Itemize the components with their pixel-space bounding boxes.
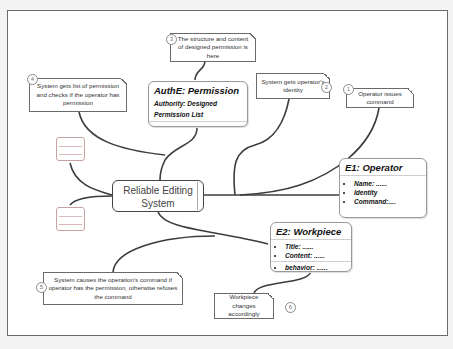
step-number-4: 4 (27, 74, 38, 85)
step-note-5: System causes the operation's command if… (43, 272, 183, 305)
entity-title: E1: Operator (340, 159, 426, 176)
entity-item: Name: ...... (354, 179, 421, 188)
step-note-2: System gets operator's identity (256, 73, 330, 99)
step-number-5: 5 (36, 282, 47, 293)
central-node: Reliable Editing System (112, 180, 204, 212)
step-note-1: Operator issues command (346, 88, 414, 108)
central-node-label: Reliable Editing System (123, 185, 193, 209)
step-note-3: The structure and content of designed pe… (170, 33, 256, 62)
entity-e2-workpiece: E2: Workpiece Title: ...... Content: ...… (270, 222, 352, 272)
step-text: System gets operator's identity (261, 78, 325, 95)
entity-line: Permission List (149, 110, 247, 122)
entity-title: E2: Workpiece (271, 223, 351, 240)
entity-item: behavior: ...... (285, 263, 346, 272)
entity-item: Command:.... (354, 197, 421, 206)
step-text: System causes the operation's command if… (48, 276, 178, 302)
step-text: Workpiece changes accordingly (219, 293, 269, 319)
step-note-6: Workpiece changes accordingly (214, 293, 274, 319)
empty-node-bottom (56, 207, 85, 231)
step-number-2: 2 (321, 82, 332, 93)
entity-line: Authority: Designed (149, 97, 247, 110)
step-text: Operator issues command (351, 90, 409, 107)
step-number-1: 1 (343, 84, 354, 95)
step-number-6: 6 (285, 302, 296, 313)
entity-item: Identity (354, 188, 421, 197)
step-number-3: 3 (166, 34, 177, 45)
entity-item: Title: ...... (285, 242, 346, 251)
entity-title: AuthE: Permission (149, 82, 247, 97)
step-note-4: System gets list of permission and check… (29, 78, 127, 112)
entity-authe-permission: AuthE: Permission Authority: Designed Pe… (148, 81, 248, 127)
empty-node-top (56, 137, 85, 161)
step-text: System gets list of permission and check… (34, 82, 122, 108)
entity-e1-operator: E1: Operator Name: ...... Identity Comma… (339, 158, 427, 218)
step-text: The structure and content of designed pe… (175, 35, 251, 61)
entity-item: Content: ...... (285, 251, 346, 260)
